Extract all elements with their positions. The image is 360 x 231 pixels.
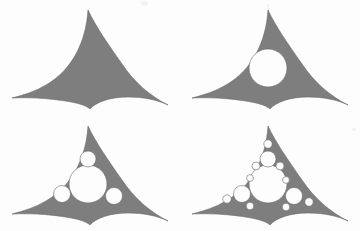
panel-stage-2: [180, 0, 360, 116]
panel-stage-4: [180, 116, 360, 231]
panel-stage-1: [0, 0, 180, 116]
panel-stage-3: [0, 116, 180, 231]
inscribed-circle-gen-3: [252, 162, 260, 170]
inscribed-circle-gen-3: [283, 177, 290, 184]
inscribed-circle-gen-2: [106, 188, 123, 205]
inscribed-circle-gen-1: [249, 165, 287, 203]
inscribed-circle-gen-2: [80, 151, 96, 167]
inscribed-circle-gen-3: [276, 162, 284, 170]
inscribed-circle-gen-1: [69, 165, 107, 203]
inscribed-circle-gen-2: [234, 186, 251, 203]
inscribed-circle-gen-2: [54, 186, 71, 203]
gasket-stage-3: [0, 116, 180, 231]
inscribed-circle-gen-1: [249, 49, 287, 87]
inscribed-circle-gen-3: [247, 175, 254, 182]
inscribed-circle-gen-3: [246, 202, 254, 210]
inscribed-circle-gen-3: [282, 203, 290, 211]
curvilinear-triangle-outline: [12, 10, 168, 109]
inscribed-circle-gen-3: [264, 140, 272, 148]
gasket-stage-2: [180, 0, 360, 116]
inscribed-circle-gen-3: [223, 195, 231, 203]
gasket-stage-1: [0, 0, 180, 116]
circle-holes-group: [249, 49, 287, 87]
gasket-stage-4: [180, 116, 360, 231]
inscribed-circle-gen-2: [286, 188, 303, 205]
inscribed-circle-gen-3: [305, 198, 313, 206]
inscribed-circle-gen-2: [260, 151, 276, 167]
figure-grid: [0, 0, 360, 231]
